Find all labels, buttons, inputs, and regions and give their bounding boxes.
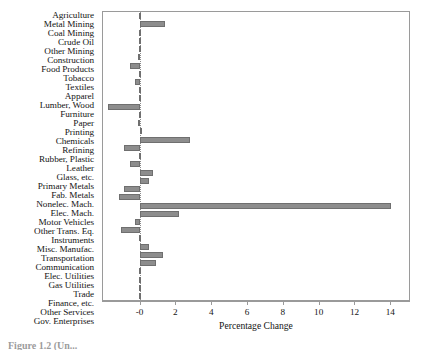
- bar: [130, 63, 141, 69]
- bar-row: [103, 243, 409, 251]
- bar-row: [103, 292, 409, 300]
- x-tick-label: 10: [314, 307, 323, 317]
- bar: [139, 285, 141, 291]
- bar-row: [103, 61, 409, 69]
- bar: [140, 260, 156, 266]
- bar: [139, 293, 141, 299]
- bar-row: [103, 70, 409, 78]
- x-tick-label: 4: [209, 307, 214, 317]
- figure-caption: Figure 1.2 (Un...: [8, 340, 308, 350]
- bar-row: [103, 37, 409, 45]
- bar-row: [103, 185, 409, 193]
- bar-row: [103, 168, 409, 176]
- bar-row: [103, 78, 409, 86]
- x-axis-line: [102, 301, 410, 302]
- x-tick: [283, 301, 284, 305]
- x-tick-label: 6: [245, 307, 250, 317]
- bar: [139, 235, 141, 241]
- bar-row: [103, 103, 409, 111]
- bar: [140, 137, 190, 143]
- x-axis-title: Percentage Change: [102, 320, 410, 331]
- bar: [108, 104, 140, 110]
- bar: [135, 219, 140, 225]
- bar: [139, 153, 141, 159]
- bar: [140, 244, 149, 250]
- bar: [121, 227, 141, 233]
- bar-row: [103, 45, 409, 53]
- bar: [135, 79, 140, 85]
- bar-row: [103, 259, 409, 267]
- x-tick-label: 8: [281, 307, 286, 317]
- bar: [124, 145, 140, 151]
- bar: [140, 252, 163, 258]
- bar-row: [103, 28, 409, 36]
- bar-row: [103, 210, 409, 218]
- bar-row: [103, 284, 409, 292]
- bar-row: [103, 144, 409, 152]
- bar: [140, 178, 149, 184]
- x-tick: [175, 301, 176, 305]
- bar: [139, 13, 141, 19]
- bar: [140, 21, 165, 27]
- bar-row: [103, 86, 409, 94]
- x-tick-label: 12: [350, 307, 359, 317]
- plot-panel: [102, 11, 410, 301]
- x-tick-label: 14: [386, 307, 395, 317]
- bar-row: [103, 276, 409, 284]
- bar-row: [103, 53, 409, 61]
- bar: [139, 268, 141, 274]
- bar: [138, 54, 141, 60]
- bar-row: [103, 226, 409, 234]
- bar-row: [103, 136, 409, 144]
- figure-container: AgricultureMetal MiningCoal MiningCrude …: [0, 0, 426, 350]
- bar: [140, 211, 179, 217]
- bar-row: [103, 12, 409, 20]
- bar-row: [103, 152, 409, 160]
- bar: [139, 277, 141, 283]
- bar: [124, 186, 140, 192]
- x-tick: [211, 301, 212, 305]
- bar: [140, 170, 152, 176]
- x-tick-label: 2: [173, 307, 178, 317]
- bar: [139, 38, 141, 44]
- x-tick: [319, 301, 320, 305]
- bar-row: [103, 234, 409, 242]
- bar: [139, 71, 141, 77]
- bar-row: [103, 20, 409, 28]
- bar: [140, 128, 142, 134]
- bar-row: [103, 160, 409, 168]
- bar: [119, 194, 140, 200]
- bar: [139, 95, 141, 101]
- x-tick: [140, 301, 141, 305]
- bar-rows: [103, 12, 409, 300]
- x-tick-label: -0: [136, 307, 144, 317]
- bar-row: [103, 119, 409, 127]
- bar-row: [103, 267, 409, 275]
- bar: [139, 46, 141, 52]
- bar-row: [103, 218, 409, 226]
- bar: [130, 161, 141, 167]
- x-tick: [354, 301, 355, 305]
- bar-row: [103, 127, 409, 135]
- category-label: Gov. Enterprises: [0, 317, 98, 326]
- bar-row: [103, 111, 409, 119]
- bar: [140, 203, 391, 209]
- bar-row: [103, 251, 409, 259]
- bar-row: [103, 177, 409, 185]
- bar: [139, 87, 141, 93]
- bar: [138, 120, 141, 126]
- x-tick: [390, 301, 391, 305]
- bar-row: [103, 201, 409, 209]
- bar: [139, 30, 141, 36]
- bar-row: [103, 193, 409, 201]
- x-tick: [247, 301, 248, 305]
- category-axis-labels: AgricultureMetal MiningCoal MiningCrude …: [0, 11, 98, 301]
- bar-row: [103, 94, 409, 102]
- bar: [139, 112, 141, 118]
